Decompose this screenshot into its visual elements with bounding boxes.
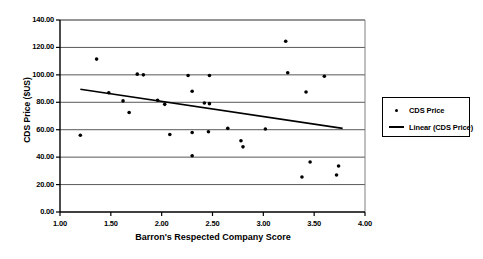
x-tick-label: 3.00 bbox=[243, 219, 283, 228]
data-point bbox=[107, 91, 111, 95]
data-point bbox=[186, 74, 190, 78]
x-tick-label: 1.00 bbox=[40, 219, 80, 228]
data-point bbox=[168, 133, 172, 137]
legend-label-linear-cds-price: Linear (CDS Price) bbox=[409, 123, 473, 132]
data-point bbox=[323, 74, 327, 78]
data-point bbox=[95, 57, 99, 61]
y-tick-label: 60.00 bbox=[14, 125, 54, 134]
y-axis-title: CDS Price ($US) bbox=[22, 50, 32, 170]
trendline bbox=[80, 89, 342, 128]
data-point bbox=[207, 130, 211, 134]
data-point bbox=[239, 139, 243, 143]
x-tick-label: 2.50 bbox=[193, 219, 233, 228]
data-point bbox=[208, 74, 212, 78]
data-point bbox=[300, 175, 304, 179]
x-tick-label: 1.50 bbox=[91, 219, 131, 228]
scatter-chart: 0.0020.0040.0060.0080.00100.00120.00140.… bbox=[0, 0, 483, 259]
x-tick-label: 3.50 bbox=[294, 219, 334, 228]
data-point bbox=[135, 72, 139, 76]
axis-ticks bbox=[56, 20, 365, 216]
gridlines bbox=[60, 20, 365, 185]
legend-item-cds-price: CDS Price bbox=[383, 101, 469, 119]
data-point bbox=[337, 164, 341, 168]
data-point bbox=[142, 73, 146, 77]
legend-label-cds-price: CDS Price bbox=[409, 106, 444, 115]
data-point bbox=[203, 101, 207, 105]
y-tick-label: 20.00 bbox=[14, 180, 54, 189]
data-point bbox=[226, 127, 230, 131]
data-point bbox=[121, 99, 125, 103]
y-tick-label: 120.00 bbox=[14, 42, 54, 51]
data-point bbox=[284, 39, 288, 43]
legend-dot-icon bbox=[383, 109, 409, 112]
data-point bbox=[308, 160, 312, 164]
legend-item-linear-cds-price: Linear (CDS Price) bbox=[383, 118, 469, 136]
x-tick-label: 2.00 bbox=[142, 219, 182, 228]
y-tick-label: 140.00 bbox=[14, 15, 54, 24]
x-axis-title: Barron's Respected Company Score bbox=[60, 232, 366, 242]
data-point bbox=[286, 71, 290, 75]
data-point bbox=[190, 90, 194, 94]
data-point bbox=[264, 127, 268, 131]
data-point bbox=[79, 133, 83, 137]
data-point bbox=[335, 173, 339, 177]
data-point bbox=[163, 103, 167, 107]
data-point bbox=[190, 154, 194, 158]
x-tick-label: 4.00 bbox=[345, 219, 385, 228]
trendline-segment bbox=[80, 89, 342, 128]
y-tick-label: 40.00 bbox=[14, 152, 54, 161]
data-point bbox=[190, 131, 194, 135]
data-point bbox=[241, 145, 245, 149]
data-point bbox=[127, 111, 131, 115]
y-tick-label: 0.00 bbox=[14, 207, 54, 216]
data-point bbox=[156, 98, 160, 102]
plot-frame bbox=[60, 20, 365, 212]
legend-line-icon bbox=[383, 126, 409, 128]
y-tick-label: 80.00 bbox=[14, 97, 54, 106]
chart-legend: CDS Price Linear (CDS Price) bbox=[382, 97, 470, 137]
y-tick-label: 100.00 bbox=[14, 70, 54, 79]
data-point bbox=[304, 90, 308, 94]
data-point bbox=[208, 102, 212, 106]
